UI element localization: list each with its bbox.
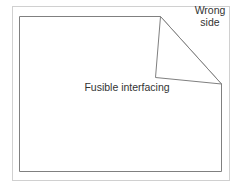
fusible-interfacing-label: Fusible interfacing [62, 81, 192, 93]
wrong-side-line-1: Wrong [188, 4, 232, 16]
interfacing-diagram [0, 0, 242, 187]
wrong-side-line-2: side [188, 16, 232, 28]
wrong-side-label: Wrong side [188, 4, 232, 28]
fabric-piece-outline [20, 17, 222, 172]
